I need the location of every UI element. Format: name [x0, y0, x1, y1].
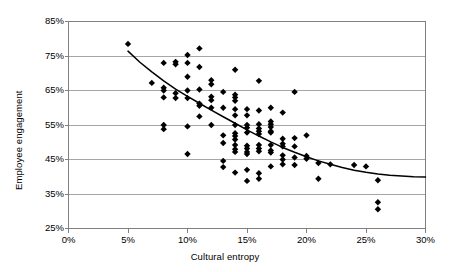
y-axis-title: Employee engagement	[13, 90, 24, 190]
x-tick-label: 10%	[168, 234, 208, 245]
y-tick-label: 35%	[24, 188, 64, 199]
y-tick-label: 55%	[24, 119, 64, 130]
y-tick-label: 25%	[24, 222, 64, 233]
scatter-chart: 25%35%45%55%65%75%85% 0%5%10%15%20%25%30…	[0, 0, 450, 272]
x-tick-label: 25%	[346, 234, 386, 245]
x-tick-label: 15%	[227, 234, 267, 245]
y-tick-label: 75%	[24, 50, 64, 61]
x-tick-label: 0%	[49, 234, 89, 245]
x-tick-label: 5%	[108, 234, 148, 245]
plot-area	[0, 0, 450, 272]
y-tick-label: 65%	[24, 84, 64, 95]
trend-curve	[128, 51, 426, 177]
y-tick-label: 85%	[24, 15, 64, 26]
x-tick-marks	[69, 229, 426, 233]
y-tick-label: 45%	[24, 153, 64, 164]
x-tick-label: 30%	[406, 234, 446, 245]
x-axis-title: Cultural entropy	[0, 251, 450, 262]
data-points	[125, 41, 381, 213]
y-tick-marks	[65, 22, 69, 229]
x-tick-label: 20%	[287, 234, 327, 245]
